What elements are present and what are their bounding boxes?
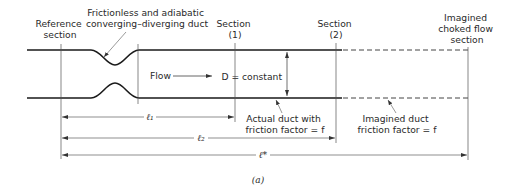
reference-section-label: Reference section <box>35 18 84 40</box>
l1-label: ℓ₁ <box>146 111 154 122</box>
section1-label: Section (1) <box>216 18 253 40</box>
flow-label: Flow <box>150 70 171 81</box>
actual-duct-leader <box>276 100 282 113</box>
diameter-label: D = constant <box>221 71 282 82</box>
choked-section-label: Imagined choked flow section <box>438 12 496 45</box>
duct-top-wall <box>27 50 342 65</box>
duct-flow-diagram: Reference section Frictionless and adiab… <box>0 0 515 193</box>
nozzle-label: Frictionless and adiabatic converging–di… <box>86 7 209 29</box>
duct-bottom-wall <box>27 83 342 98</box>
lstar-label: ℓ* <box>259 149 268 160</box>
l2-label: ℓ₂ <box>197 132 205 143</box>
figure-caption: (a) <box>252 175 265 185</box>
section-lines <box>61 43 468 160</box>
section2-label: Section (2) <box>317 18 354 40</box>
actual-duct-label: Actual duct with friction factor = f <box>246 113 326 135</box>
imagined-duct-label: Imagined duct friction factor = f <box>358 113 438 135</box>
imagined-duct-leader <box>388 100 396 113</box>
nozzle-leader-line <box>104 32 126 57</box>
